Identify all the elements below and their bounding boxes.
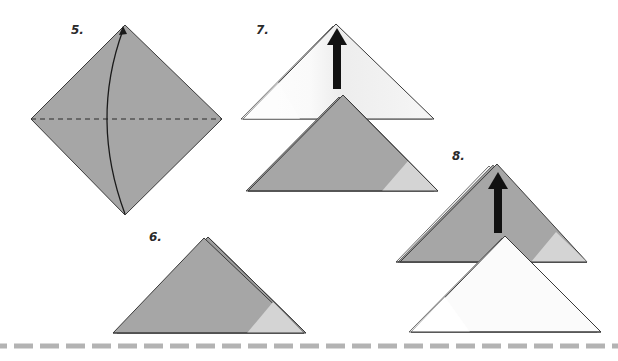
step-8-label: 8. [452, 149, 465, 163]
origami-diagram: 5. 7. 6. 8. [0, 0, 618, 361]
step-7-figure [241, 24, 438, 191]
step-6-figure [113, 237, 306, 333]
step-7-label: 7. [256, 23, 269, 37]
diagram-canvas [0, 0, 618, 361]
up-arrow-shaft [494, 188, 502, 233]
step-6-label: 6. [149, 230, 162, 244]
up-arrow-shaft [333, 44, 341, 89]
step-5-diamond [31, 25, 222, 215]
step-5-label: 5. [71, 23, 84, 37]
